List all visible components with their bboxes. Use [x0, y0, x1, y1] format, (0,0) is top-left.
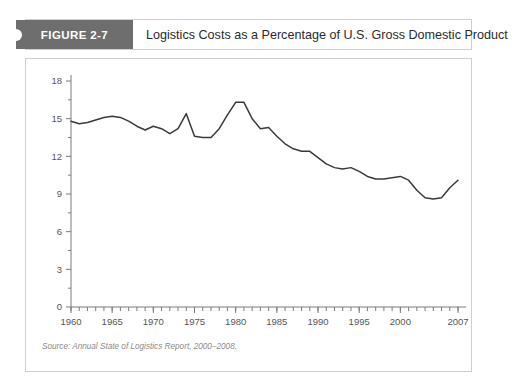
figure-number-badge: FIGURE 2-7 — [16, 20, 133, 49]
svg-text:0: 0 — [57, 301, 62, 312]
figure-header: FIGURE 2-7 Logistics Costs as a Percenta… — [25, 19, 472, 50]
source-note: Source: Annual State of Logistics Report… — [42, 342, 237, 351]
figure-number-label: FIGURE 2-7 — [41, 29, 108, 41]
chart-frame: 0369121518196019651970197519801985199019… — [25, 58, 472, 372]
svg-text:2000: 2000 — [390, 316, 411, 327]
svg-text:6: 6 — [57, 226, 62, 237]
svg-text:1990: 1990 — [307, 316, 328, 327]
badge-notch-icon — [10, 29, 22, 41]
svg-text:1980: 1980 — [225, 316, 246, 327]
line-chart: 0369121518196019651970197519801985199019… — [26, 59, 473, 339]
svg-text:1965: 1965 — [102, 316, 123, 327]
svg-text:3: 3 — [57, 264, 62, 275]
svg-text:1985: 1985 — [266, 316, 287, 327]
figure-card: FIGURE 2-7 Logistics Costs as a Percenta… — [0, 0, 517, 390]
svg-text:1970: 1970 — [143, 316, 164, 327]
svg-text:1960: 1960 — [60, 316, 81, 327]
svg-text:18: 18 — [51, 75, 62, 86]
chart-plot-area: 0369121518196019651970197519801985199019… — [26, 59, 473, 339]
svg-text:1975: 1975 — [184, 316, 205, 327]
svg-text:9: 9 — [57, 188, 62, 199]
svg-text:15: 15 — [51, 113, 62, 124]
data-line-logistics-costs — [71, 102, 458, 199]
svg-text:1995: 1995 — [349, 316, 370, 327]
svg-text:12: 12 — [51, 151, 62, 162]
svg-text:2007: 2007 — [447, 316, 468, 327]
figure-title: Logistics Costs as a Percentage of U.S. … — [146, 20, 508, 49]
